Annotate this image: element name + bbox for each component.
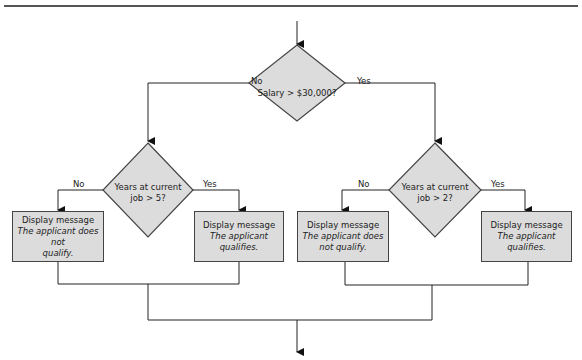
main-yes-connector xyxy=(345,83,435,141)
main-no-connector xyxy=(148,83,249,141)
process-message-line1: The applicant does not xyxy=(13,226,103,248)
process-message-line1: The applicant qualifies. xyxy=(195,231,283,253)
process-title: Display message xyxy=(203,220,275,231)
right-merge-connector xyxy=(345,261,528,285)
process-title: Display message xyxy=(490,220,562,231)
left-no-connector xyxy=(58,190,103,210)
right-decision-line1: Years at current xyxy=(395,182,475,193)
left-yes-connector xyxy=(193,190,239,210)
process-box-not-qualify-right: Display message The applicant does not q… xyxy=(297,211,389,262)
right-yes-label: Yes xyxy=(491,179,505,189)
main-yes-label: Yes xyxy=(357,76,371,86)
process-title: Display message xyxy=(307,220,379,231)
main-decision-diamond xyxy=(249,45,345,121)
left-no-label: No xyxy=(73,179,85,189)
right-no-connector xyxy=(342,190,389,210)
left-decision-line1: Years at current xyxy=(108,182,188,193)
left-decision-text: Years at current job > 5? xyxy=(108,182,188,204)
main-decision-text: Salary > $30,000? xyxy=(249,88,345,99)
process-message-line1: The applicant qualifies. xyxy=(482,231,571,253)
main-no-label: No xyxy=(251,76,263,86)
right-decision-text: Years at current job > 2? xyxy=(395,182,475,204)
left-yes-label: Yes xyxy=(203,179,217,189)
process-box-qualifies-right: Display message The applicant qualifies. xyxy=(481,211,572,262)
left-decision-line2: job > 5? xyxy=(108,193,188,204)
process-message-line2: qualify. xyxy=(43,248,74,259)
right-no-label: No xyxy=(358,179,370,189)
process-box-qualifies-left: Display message The applicant qualifies. xyxy=(194,211,284,262)
right-decision-line2: job > 2? xyxy=(395,193,475,204)
process-title: Display message xyxy=(22,215,94,226)
right-yes-connector xyxy=(481,190,525,210)
process-message-line2: not qualify. xyxy=(319,242,366,253)
process-box-not-qualify-left: Display message The applicant does not q… xyxy=(12,211,104,262)
left-merge-connector xyxy=(58,261,239,284)
final-merge-connector xyxy=(148,284,432,320)
process-message-line1: The applicant does xyxy=(303,231,384,242)
